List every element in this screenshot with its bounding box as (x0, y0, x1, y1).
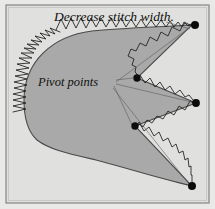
pivot-point-inner-lower (131, 122, 138, 129)
pivot-point-middle-right (192, 99, 200, 107)
figure-container: Decrease stitch width. Pivot points (0, 0, 215, 209)
pivot-point-top-right (191, 21, 199, 29)
pivot-points-label: Pivot points (37, 75, 98, 89)
diagram-canvas: Decrease stitch width. Pivot points (0, 0, 215, 209)
pivot-point-inner-upper (133, 74, 140, 81)
title-label: Decrease stitch width. (53, 9, 174, 24)
pivot-point-bottom-right (188, 182, 196, 190)
